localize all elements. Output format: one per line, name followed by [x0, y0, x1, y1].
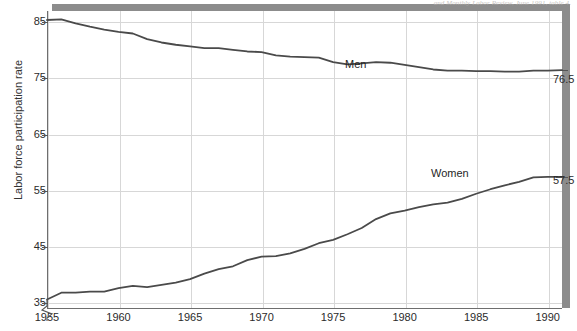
- men-end-value-label: 76.5: [553, 73, 574, 85]
- series-lines-layer: [0, 0, 577, 331]
- series-label-women: Women: [431, 167, 469, 179]
- y-axis-break-icon: [40, 299, 56, 321]
- series-label-men: Men: [345, 58, 366, 70]
- series-line-women: [47, 177, 562, 300]
- series-line-men: [47, 19, 562, 71]
- women-end-value-label: 57.5: [553, 174, 574, 186]
- labor-force-participation-chart: and Monthly Labor Review, June 1991, tab…: [0, 0, 577, 331]
